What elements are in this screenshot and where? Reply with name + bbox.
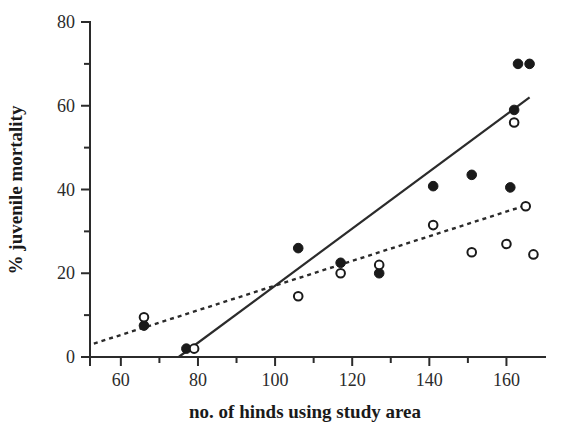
- chart-figure: 6080100120140160020406080 no. of hinds u…: [0, 0, 565, 431]
- y-tick-label: 60: [57, 96, 75, 116]
- data-point-open: [336, 269, 345, 278]
- y-tick-label: 80: [57, 12, 75, 32]
- data-point-open: [429, 221, 438, 230]
- y-axis-title: % juvenile mortality: [5, 105, 26, 274]
- data-points-group: [139, 59, 538, 353]
- solid-regression-line: [179, 97, 530, 357]
- y-tick-label: 0: [66, 347, 75, 367]
- y-tick-label: 40: [57, 180, 75, 200]
- data-point-filled: [525, 59, 535, 69]
- data-point-open: [510, 118, 519, 127]
- y-tick-label: 20: [57, 263, 75, 283]
- data-point-filled: [513, 59, 523, 69]
- data-point-open: [502, 240, 511, 249]
- data-point-open: [190, 344, 199, 353]
- data-point-open: [140, 313, 149, 322]
- x-tick-label: 160: [493, 370, 520, 390]
- trend-lines-group: [94, 97, 530, 357]
- x-tick-label: 120: [339, 370, 366, 390]
- axes-group: [90, 22, 545, 357]
- data-point-filled: [467, 170, 477, 180]
- scatter-plot-svg: 6080100120140160020406080 no. of hinds u…: [0, 0, 565, 431]
- data-point-filled: [505, 183, 515, 193]
- data-point-filled: [509, 105, 519, 115]
- data-point-open: [294, 292, 303, 301]
- data-point-open: [521, 202, 530, 211]
- x-tick-label: 60: [112, 370, 130, 390]
- data-point-open: [375, 261, 384, 270]
- data-point-filled: [336, 258, 346, 268]
- dotted-regression-line: [94, 204, 530, 343]
- data-point-open: [529, 250, 538, 259]
- x-tick-label: 80: [189, 370, 207, 390]
- data-point-filled: [293, 243, 303, 253]
- data-point-open: [467, 248, 476, 257]
- x-axis-title: no. of hinds using study area: [189, 401, 421, 422]
- x-tick-label: 100: [262, 370, 289, 390]
- x-tick-label: 140: [416, 370, 443, 390]
- data-point-filled: [428, 181, 438, 191]
